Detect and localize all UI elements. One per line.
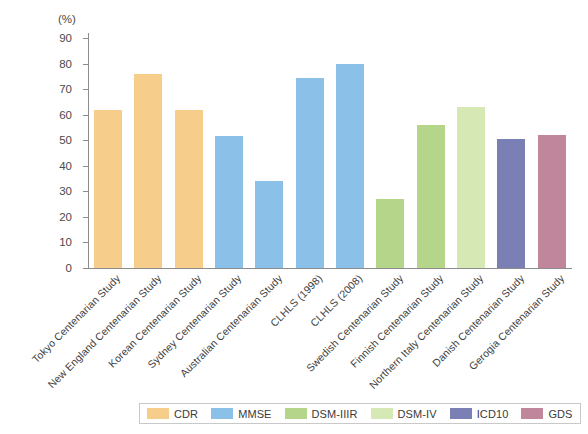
y-tick-label: 50 xyxy=(59,134,72,146)
legend-item: CDR xyxy=(147,408,198,420)
y-tick-label: 10 xyxy=(59,236,72,248)
bar xyxy=(417,125,445,268)
legend-item: ICD10 xyxy=(450,408,509,420)
y-tick-label: 70 xyxy=(59,83,72,95)
bar-slot xyxy=(451,38,491,268)
bar xyxy=(175,110,203,268)
bar-slot xyxy=(290,38,330,268)
bar xyxy=(215,136,243,268)
legend-item: DSM-IIIR xyxy=(285,408,358,420)
legend-swatch xyxy=(450,408,472,419)
bar xyxy=(497,139,525,268)
x-axis-category-labels: Tokyo Centenarian StudyNew England Cente… xyxy=(88,270,572,380)
bar xyxy=(255,181,283,268)
y-tick-label: 90 xyxy=(59,32,72,44)
bar-slot xyxy=(491,38,531,268)
legend-item: MMSE xyxy=(211,408,271,420)
bar-slot xyxy=(249,38,289,268)
bar xyxy=(134,74,162,268)
legend-label: ICD10 xyxy=(477,408,509,420)
bar-slot xyxy=(411,38,451,268)
bar-series-container xyxy=(88,38,572,268)
y-tick-label: 60 xyxy=(59,109,72,121)
legend-label: CDR xyxy=(174,408,198,420)
bar xyxy=(94,110,122,268)
legend-swatch xyxy=(521,408,543,419)
bar xyxy=(457,107,485,268)
bar-slot xyxy=(370,38,410,268)
bar-slot xyxy=(532,38,572,268)
legend-swatch xyxy=(371,408,393,419)
chart-legend: CDRMMSEDSM-IIIRDSM-IVICD10GDS xyxy=(139,403,581,424)
bar xyxy=(336,64,364,268)
bar-chart: (%) 9080706050403020100 Tokyo Centenaria… xyxy=(0,0,588,434)
bar-slot xyxy=(169,38,209,268)
legend-swatch xyxy=(147,408,169,419)
y-tick-label: 30 xyxy=(59,185,72,197)
bar-slot xyxy=(88,38,128,268)
y-tick-label: 0 xyxy=(66,262,72,274)
legend-label: MMSE xyxy=(238,408,271,420)
x-axis-line xyxy=(88,268,572,269)
legend-item: DSM-IV xyxy=(371,408,437,420)
legend-label: DSM-IV xyxy=(398,408,437,420)
legend-swatch xyxy=(285,408,307,419)
bar-slot xyxy=(330,38,370,268)
legend-item: GDS xyxy=(521,408,572,420)
legend-label: DSM-IIIR xyxy=(312,408,358,420)
bar xyxy=(376,199,404,268)
bar xyxy=(538,135,566,268)
y-tick-label: 80 xyxy=(59,58,72,70)
bar xyxy=(296,78,324,268)
y-tick-label: 20 xyxy=(59,211,72,223)
bar-slot xyxy=(128,38,168,268)
bar-slot xyxy=(209,38,249,268)
legend-label: GDS xyxy=(548,408,572,420)
y-tick-label: 40 xyxy=(59,160,72,172)
legend-swatch xyxy=(211,408,233,419)
